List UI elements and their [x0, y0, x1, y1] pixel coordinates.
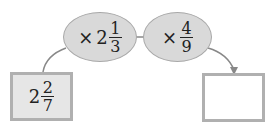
operation-multiply-1: × 2 1 3 [63, 12, 137, 62]
start-fraction: 2 7 [41, 79, 54, 114]
result-box[interactable] [202, 73, 265, 122]
operation-multiply-2: × 4 9 [143, 12, 212, 62]
start-whole: 2 [29, 86, 40, 107]
start-box: 2 2 7 [10, 72, 73, 121]
